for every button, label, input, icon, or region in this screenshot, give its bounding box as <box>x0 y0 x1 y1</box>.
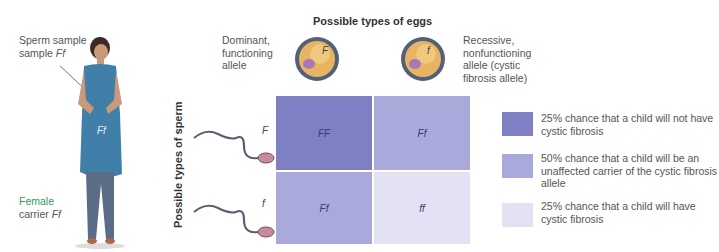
legend-swatch-carrier <box>502 154 533 178</box>
sperm-recessive-allele: f <box>262 198 265 209</box>
punnett-cell-ff: ff <box>374 172 470 244</box>
punnett-cell-FF: FF <box>276 96 372 170</box>
egg-dominant-icon <box>294 36 340 82</box>
egg-recessive-allele: f <box>427 45 430 56</box>
woman-figure-icon <box>60 34 140 249</box>
female-carrier-label: Female carrier Ff <box>19 195 61 220</box>
carrier-genotype: Ff <box>52 208 61 220</box>
sperm-dominant-allele: F <box>262 125 268 136</box>
punnett-cell-Ff-bottom: Ff <box>276 172 372 244</box>
eggs-title: Possible types of eggs <box>313 15 432 27</box>
egg-dominant-allele: F <box>322 45 328 56</box>
dominant-allele-label: Dominant, functioning allele <box>222 34 273 72</box>
legend-swatch-recessive <box>502 203 533 227</box>
punnett-cell-Ff-top: Ff <box>374 96 470 170</box>
sperm-title: Possible types of sperm <box>172 101 184 228</box>
legend-text-cf: 25% chance that a child will have cystic… <box>541 200 719 225</box>
sperm-sample-genotype-line: sample Ff <box>19 47 65 60</box>
egg-recessive-icon <box>400 36 446 82</box>
shirt-genotype: Ff <box>97 125 106 136</box>
legend-text-carrier: 50% chance that a child will be an unaff… <box>541 152 719 190</box>
recessive-allele-label: Recessive, nonfunctioning allele (cystic… <box>463 34 531 84</box>
legend-text-not-cf: 25% chance that a child will not have cy… <box>541 112 719 137</box>
legend-swatch-dominant <box>502 112 533 136</box>
